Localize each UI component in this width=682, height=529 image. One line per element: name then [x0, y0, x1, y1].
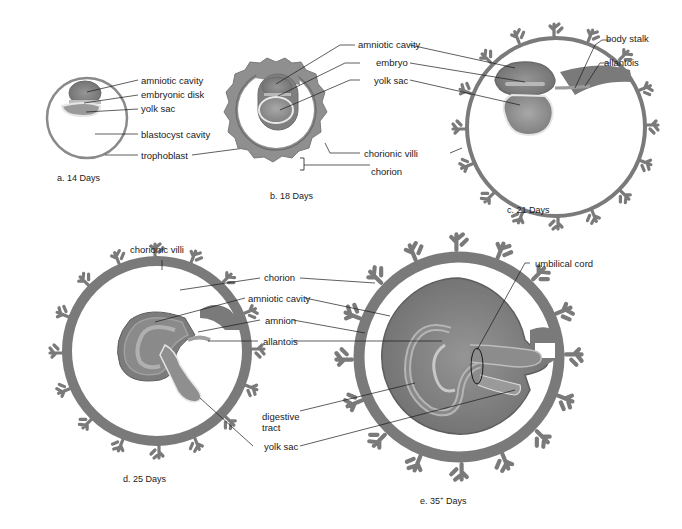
panel-e-35-days	[336, 234, 581, 479]
caption-a: a. 14 Days	[57, 173, 100, 183]
label-c-allantois: allantois	[604, 57, 639, 68]
label-b-embryo: embryo	[376, 57, 408, 68]
caption-e: e. 35+ Days	[420, 495, 467, 506]
label-d-digestive-tract-line1: digestive	[262, 411, 300, 422]
label-b-chorion: chorion	[371, 166, 402, 177]
label-b-chorionic-villi: chorionic villi	[364, 148, 418, 159]
panel-b-18-days	[224, 58, 327, 170]
label-d-yolk-sac: yolk sac	[264, 441, 298, 452]
label-e-umbilical-cord: umbilical cord	[535, 258, 593, 269]
label-a-yolk-sac: yolk sac	[141, 103, 175, 114]
allantois-shape	[555, 86, 590, 88]
label-d-amnion: amnion	[265, 315, 296, 326]
caption-e-tail: Days	[444, 496, 467, 506]
label-d-amniotic-cavity: amniotic cavity	[248, 293, 310, 304]
panel-c-21-days	[453, 24, 658, 229]
panel-d-25-days	[50, 244, 264, 458]
c-yolk-sac-shape	[504, 95, 553, 135]
label-d-digestive-tract-line2: tract	[262, 422, 280, 433]
d-allantois-shape	[188, 338, 210, 341]
label-a-blastocyst-cavity: blastocyst cavity	[141, 129, 210, 140]
caption-e-main: e. 35	[420, 496, 440, 506]
label-a-trophoblast: trophoblast	[141, 150, 188, 161]
caption-d: d. 25 Days	[123, 474, 166, 484]
c-amniotic-cavity-shape	[495, 62, 555, 96]
label-a-embryonic-disk: embryonic disk	[141, 89, 204, 100]
label-b-yolk-sac: yolk sac	[374, 75, 408, 86]
caption-c: c. 21 Days	[507, 205, 550, 215]
label-a-amniotic-cavity: amniotic cavity	[141, 75, 203, 86]
body-stalk-shape	[560, 65, 632, 95]
label-d-chorion: chorion	[264, 272, 295, 283]
yolk-sac-shape	[62, 103, 100, 116]
label-b-amniotic-cavity: amniotic cavity	[358, 39, 420, 50]
panel-a-14-days	[47, 78, 127, 158]
caption-b: b. 18 Days	[270, 191, 313, 201]
b-yolk-sac-shape	[259, 97, 293, 123]
label-d-chorionic-villi: chorionic villi	[130, 244, 184, 255]
label-d-allantois: allantois	[263, 336, 298, 347]
label-c-body-stalk: body stalk	[606, 33, 649, 44]
c-chorionic-villi	[453, 24, 658, 229]
